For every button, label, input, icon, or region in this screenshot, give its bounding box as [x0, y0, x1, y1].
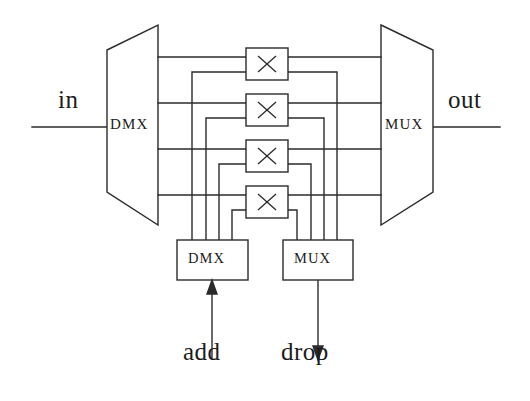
switch-element-1[interactable] [246, 48, 288, 80]
add-arrow-head [207, 280, 217, 294]
main-demux-label: DMX [110, 116, 149, 133]
ch4-add-path [232, 210, 246, 240]
drop-mux-label: MUX [294, 250, 331, 267]
diagram-canvas: in out add drop DMX MUX DMX MUX [0, 0, 530, 401]
drop-label: drop [281, 338, 329, 366]
add-demux-label: DMX [188, 250, 225, 267]
ch2-add-path [206, 118, 246, 240]
add-drop-multiplexer-schematic [0, 0, 530, 401]
main-mux-label: MUX [385, 116, 424, 133]
ch3-drop-path [288, 164, 311, 240]
add-label: add [183, 338, 221, 366]
switch-element-3[interactable] [246, 140, 288, 172]
ch1-drop-path [288, 72, 337, 240]
switch-element-4[interactable] [246, 186, 288, 218]
ch4-drop-path [288, 210, 297, 240]
switch-element-2[interactable] [246, 94, 288, 126]
ch2-drop-path [288, 118, 324, 240]
output-label: out [448, 86, 481, 114]
input-label: in [58, 86, 78, 114]
